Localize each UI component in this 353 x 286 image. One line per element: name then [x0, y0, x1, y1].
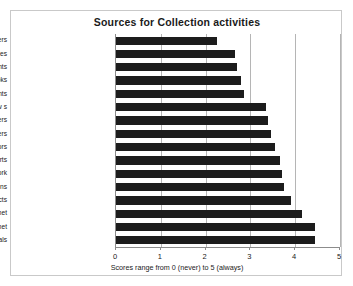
bar [116, 236, 315, 244]
x-tick-label: 2 [195, 252, 215, 261]
category-label: informal contacts [0, 197, 7, 204]
bar-row [116, 76, 339, 84]
x-tick [339, 247, 340, 250]
x-tick [249, 247, 250, 250]
bar [116, 130, 271, 138]
x-tick [294, 247, 295, 250]
category-label: trade journals [0, 237, 7, 244]
bar-row [116, 37, 339, 45]
bar-row [116, 143, 339, 151]
x-tick-label: 1 [150, 252, 170, 261]
x-tick-label: 4 [284, 252, 304, 261]
bar-row [116, 50, 339, 58]
bar-series [116, 34, 339, 247]
category-label: on-line databased internet [0, 210, 7, 217]
bar [116, 143, 275, 151]
bar [116, 63, 237, 71]
category-label: Internet [0, 224, 7, 231]
category-label: customers [0, 131, 7, 138]
category-label: governments [0, 64, 7, 71]
x-tick [205, 247, 206, 250]
bar-row [116, 130, 339, 138]
bar [116, 210, 302, 218]
plot-area [115, 34, 339, 247]
category-label: tradeshow s [0, 104, 7, 111]
x-tick-label: 5 [329, 252, 349, 261]
category-label: new spapers [0, 117, 7, 124]
bar-row [116, 63, 339, 71]
bar [116, 170, 282, 178]
category-label: collection netw ork [0, 170, 7, 177]
bar [116, 76, 241, 84]
category-label: experts [0, 157, 7, 164]
bar-row [116, 236, 339, 244]
x-tick-label: 3 [239, 252, 259, 261]
gridline-5 [340, 34, 341, 247]
x-axis-caption: Scores range from 0 (never) to 5 (always… [11, 263, 343, 272]
bar [116, 90, 244, 98]
category-label: consultants [0, 91, 7, 98]
bar-row [116, 196, 339, 204]
bar-row [116, 210, 339, 218]
x-tick-label: 0 [105, 252, 125, 261]
bar [116, 183, 284, 191]
chart-title: Sources for Collection activities [11, 16, 343, 28]
category-label: patent agencies [0, 51, 7, 58]
bar-row [116, 116, 339, 124]
bar [116, 223, 315, 231]
bar [116, 50, 235, 58]
category-label: internal publications [0, 184, 7, 191]
bar-row [116, 223, 339, 231]
category-label: competitors [0, 144, 7, 151]
bar [116, 37, 217, 45]
chart-frame: Sources for Collection activities 012345… [10, 10, 342, 276]
x-axis-line [115, 247, 340, 248]
x-tick [115, 247, 116, 250]
bar [116, 196, 291, 204]
bar-row [116, 90, 339, 98]
bar [116, 103, 266, 111]
bar [116, 156, 280, 164]
category-label: books [0, 77, 7, 84]
category-label: suppliers [0, 37, 7, 44]
x-tick [160, 247, 161, 250]
bar-row [116, 170, 339, 178]
bar-row [116, 103, 339, 111]
bar-row [116, 156, 339, 164]
bar-row [116, 183, 339, 191]
bar [116, 116, 268, 124]
